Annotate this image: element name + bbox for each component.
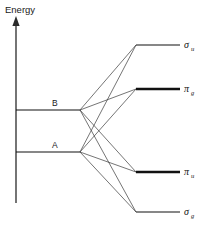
mo-label-sigma-u-subscript: u [191,45,195,52]
mo-label-pi-u-subscript: u [191,172,195,179]
mo-label-sigma-g-symbol: σ [184,206,190,217]
mo-label-sigma-g-subscript: g [191,212,195,219]
correlation-line-a-pi-u [80,152,136,172]
correlation-lines [80,45,136,212]
mo-label-pi-g: π g [184,83,195,96]
mo-label-pi-u: π u [184,166,195,179]
energy-axis-label: Energy [5,4,35,15]
mo-label-pi-g-subscript: g [191,89,195,96]
level-label-b: B [52,98,58,108]
diagram-canvas: Energy B A σ u [0,0,201,227]
correlation-line-b-pi-u [80,110,136,172]
mo-label-pi-g-symbol: π [184,83,190,94]
mo-correlation-diagram: Energy B A σ u [0,0,201,227]
correlation-line-b-sigma-u [80,45,136,110]
mo-label-sigma-u-symbol: σ [184,39,190,50]
up-arrow-icon [12,16,19,26]
atomic-levels [16,110,80,152]
mo-label-sigma-g: σ g [184,206,195,219]
level-label-a: A [52,140,58,150]
molecular-levels [136,45,180,212]
mo-label-sigma-u: σ u [184,39,195,52]
correlation-line-b-pi-g [80,89,136,110]
mo-label-pi-u-symbol: π [184,166,190,177]
